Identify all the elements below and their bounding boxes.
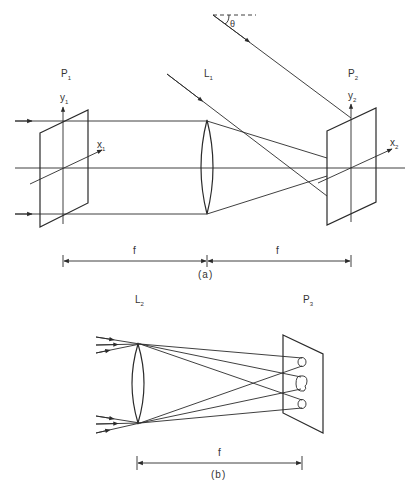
x1-axis-arrow-icon: [30, 150, 102, 184]
theta-label: θ: [230, 19, 235, 29]
dim-label-f: f: [218, 447, 221, 458]
optical-fourier-diagram: P1 y1 x1 L1 θ P2 y2 x2 f f (a): [0, 0, 418, 489]
dim-label-f-right: f: [276, 245, 279, 256]
diffraction-spot-center: [296, 376, 307, 391]
converging-ray-top: [207, 121, 327, 158]
figure-a: P1 y1 x1 L1 θ P2 y2 x2 f f (a): [15, 15, 405, 280]
plane-p2-label: P2: [348, 68, 359, 81]
ray-arrow-icon: [96, 416, 112, 419]
output-ray: [140, 344, 302, 358]
y2-axis-label: y2: [348, 90, 357, 103]
y1-axis-label: y1: [60, 92, 69, 105]
ray-arrow-icon: [96, 351, 108, 354]
x2-axis-label: x2: [390, 137, 399, 150]
output-plane-p3: [283, 335, 323, 433]
ray-arrow-icon: [96, 430, 108, 433]
output-ray: [140, 389, 301, 423]
dim-label-f-left: f: [133, 245, 136, 256]
plane-p1-label: P1: [61, 68, 72, 81]
theta-angle-arc: [225, 15, 229, 24]
x1-axis-label: x1: [97, 139, 106, 152]
output-ray: [140, 408, 302, 423]
output-ray: [140, 366, 302, 423]
lens-l1-label: L1: [204, 68, 214, 81]
lens-l1: [201, 120, 213, 214]
output-plane-p2: [327, 108, 376, 225]
lens-l2: [132, 344, 144, 423]
plane-p3-label: P3: [303, 294, 314, 307]
converging-ray-bottom: [207, 176, 327, 214]
caption-b: (b): [211, 469, 226, 480]
x2-axis-arrow-icon: [318, 149, 392, 183]
caption-a: (a): [198, 269, 213, 280]
diffraction-spot-top: [298, 358, 306, 367]
oblique-ray-arrow-icon: [167, 74, 201, 100]
input-plane-p1: [40, 110, 88, 227]
lens-l2-label: L2: [135, 294, 145, 307]
ray-arrow-icon: [96, 337, 112, 340]
figure-b: L2 P3 f (b): [96, 294, 323, 480]
diffraction-spot-bottom: [298, 400, 306, 409]
